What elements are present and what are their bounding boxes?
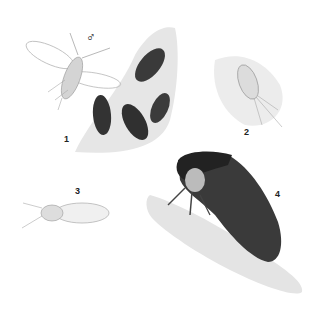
insect-body [57,55,87,102]
figure-label-3: 3 [75,186,80,196]
figure-label-4: 4 [275,189,280,199]
illustration-plate: ♂ 1 2 3 4 [0,0,323,311]
male-symbol: ♂ [86,29,96,44]
figure-label-2: 2 [244,127,249,137]
figure-label-1: 1 [64,134,69,144]
treehopper-thorax [185,168,205,192]
insect-body [41,205,63,221]
bark-background [75,27,178,153]
insect-illustrations [0,0,323,311]
